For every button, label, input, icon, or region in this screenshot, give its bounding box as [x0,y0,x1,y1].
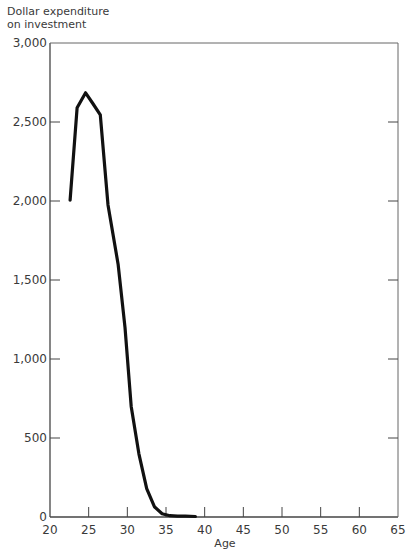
y-ticks: 05001,0001,5002,0002,5003,000 [13,36,398,524]
x-ticks: 20253035404550556065 [42,507,405,537]
x-axis-label: Age [214,537,236,550]
series-group [70,93,195,517]
x-tick-label: 40 [197,523,212,537]
x-tick-label: 35 [158,523,173,537]
x-tick-label: 45 [236,523,251,537]
x-tick-label: 60 [352,523,367,537]
x-tick-label: 30 [120,523,135,537]
y-tick-label: 1,000 [13,352,47,366]
series-line-investment [70,93,195,517]
x-tick-label: 50 [274,523,289,537]
plot-frame [50,43,398,517]
y-axis-label-line-1: Dollar expenditure [7,5,109,18]
x-tick-label: 55 [313,523,328,537]
y-tick-label: 2,000 [13,194,47,208]
chart: Dollar expenditure on investment 05001,0… [0,0,415,552]
y-tick-label: 500 [24,431,47,445]
x-tick-label: 25 [81,523,96,537]
y-axis-label-line-2: on investment [7,18,87,31]
y-tick-label: 1,500 [13,273,47,287]
x-tick-label: 65 [390,523,405,537]
y-tick-label: 3,000 [13,36,47,50]
y-tick-label: 2,500 [13,115,47,129]
x-tick-label: 20 [42,523,57,537]
y-tick-label: 0 [39,510,47,524]
